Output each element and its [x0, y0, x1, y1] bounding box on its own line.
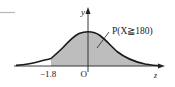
x-axis-arrow-icon [158, 64, 165, 69]
y-axis-label: y [80, 7, 85, 17]
y-axis-arrow-icon [86, 7, 91, 14]
normal-distribution-figure: y z −1.8 O P(X≧180) [0, 0, 175, 87]
x-axis-label: z [153, 71, 158, 80]
probability-annotation: P(X≧180) [112, 26, 153, 37]
origin-label: O [81, 69, 88, 79]
tick-label-neg-1-8: −1.8 [40, 69, 57, 79]
